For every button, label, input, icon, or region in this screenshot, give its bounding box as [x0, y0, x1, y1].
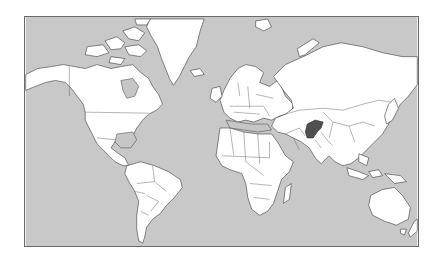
world-map: [24, 16, 419, 247]
world-map-svg: [25, 17, 418, 246]
